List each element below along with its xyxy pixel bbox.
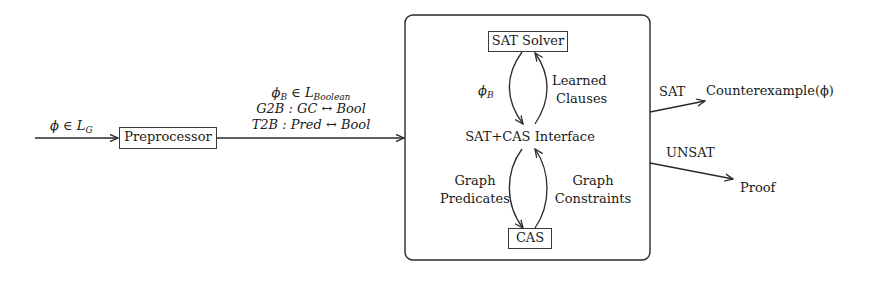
learned-clauses-arrow [535,53,547,124]
phi-b-label: ϕB [478,83,494,103]
sat-result-label: SAT [659,84,685,99]
preprocessor-box: Preprocessor [119,127,217,149]
graph-predicates-label-line2: Predicates [430,191,520,206]
sat-solver-label: SAT Solver [492,33,565,48]
graph-constraints-arrow [535,149,547,228]
graph-predicates-arrow [509,149,523,228]
learned-clauses-label-line2: Clauses [556,91,607,106]
cas-box: CAS [508,228,552,249]
unsat-result-label: UNSAT [666,145,715,160]
graph-predicates-label-line1: Graph [430,173,520,188]
unsat-arrow [650,163,733,179]
interface-label: SAT+CAS Interface [450,129,610,144]
phi-b-arrow [509,52,523,124]
input-formula-label: ϕ ∈ LG [50,118,93,138]
t2b-mapping-label: T2B : Pred ↔ Bool [226,117,396,132]
cas-label: CAS [516,230,544,245]
counterexample-label: Counterexample(ϕ) [706,83,834,98]
g2b-mapping-label: G2B : GC ↔ Bool [226,101,396,116]
learned-clauses-label-line1: Learned [552,73,607,88]
proof-label: Proof [740,180,775,195]
graph-constraints-label-line1: Graph [548,173,638,188]
sat-solver-box: SAT Solver [488,31,568,52]
preprocessor-label: Preprocessor [124,129,211,144]
graph-constraints-label-line2: Constraints [548,191,638,206]
sat-arrow [650,101,705,112]
